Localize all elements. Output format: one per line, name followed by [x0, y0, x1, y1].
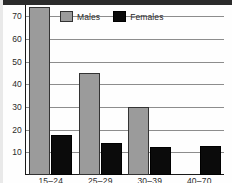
- bar-males-25-29: [79, 73, 100, 175]
- bar-females-15-24: [51, 135, 72, 175]
- bar-females-30-39: [150, 147, 171, 175]
- x-tick-label-40-70: 40–70: [175, 176, 225, 183]
- bar-females-40-70: [200, 146, 221, 176]
- bar-males-30-39: [128, 107, 149, 175]
- chart-legend: Males Females: [60, 11, 163, 22]
- bar-chart-screenshot: 10203040506070 15–2425–2930–3940–70 Male…: [0, 0, 232, 183]
- y-tick-label-20: 20: [2, 125, 22, 135]
- bar-females-25-29: [101, 143, 122, 175]
- x-tick-label-15-24: 15–24: [26, 176, 76, 183]
- y-tick-label-50: 50: [2, 57, 22, 67]
- y-tick-label-10: 10: [2, 147, 22, 157]
- legend-item-females: Females: [113, 11, 163, 22]
- y-tick-label-70: 70: [2, 11, 22, 21]
- legend-label-females: Females: [130, 12, 163, 22]
- legend-label-males: Males: [77, 12, 100, 22]
- x-axis-category-labels: 15–2425–2930–3940–70: [26, 176, 224, 183]
- legend-swatch-males-icon: [60, 11, 73, 22]
- y-axis-tick-labels: 10203040506070: [0, 0, 22, 183]
- y-tick-label-40: 40: [2, 79, 22, 89]
- legend-item-males: Males: [60, 11, 100, 22]
- x-tick-label-30-39: 30–39: [125, 176, 175, 183]
- bar-males-15-24: [29, 7, 50, 175]
- y-tick-label-60: 60: [2, 34, 22, 44]
- y-tick-label-30: 30: [2, 102, 22, 112]
- legend-swatch-females-icon: [113, 11, 126, 22]
- x-tick-label-25-29: 25–29: [76, 176, 126, 183]
- bar-series-group: [26, 5, 224, 175]
